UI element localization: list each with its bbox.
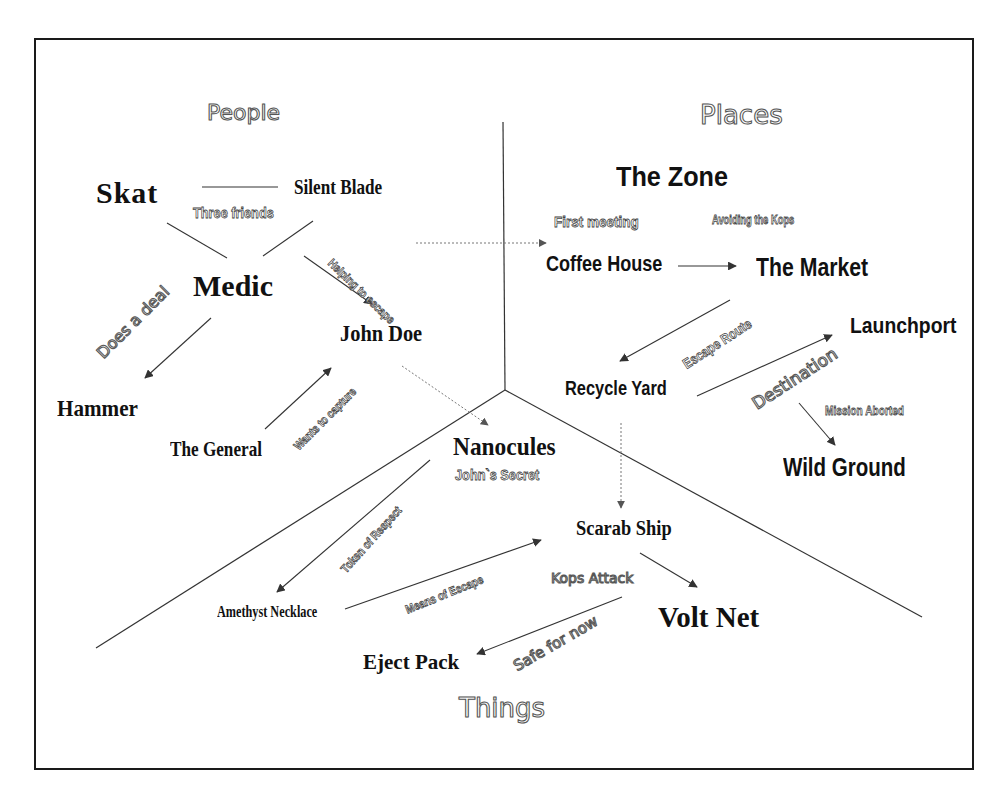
node-the-general: The General (170, 438, 262, 460)
node-scarab-ship: Scarab Ship (576, 518, 672, 538)
edge-label-mission-aborted: Mission Aborted (825, 404, 904, 417)
node-coffee-house: Coffee House (546, 253, 662, 275)
node-volt-net: Volt Net (658, 603, 759, 632)
node-wild-ground: Wild Ground (783, 455, 906, 480)
section-heading-places: Places (700, 102, 783, 128)
edge-label-avoiding-the-kops: Avoiding the Kops (712, 214, 794, 226)
node-amethyst-necklace: Amethyst Necklace (217, 603, 317, 620)
edge-label-three-friends: Three friends (193, 205, 274, 220)
node-medic: Medic (193, 271, 273, 301)
connector-lines (0, 0, 1005, 790)
section-heading-things: Things (459, 695, 545, 721)
node-the-market: The Market (756, 255, 868, 280)
edge-label-johns-secret: John`s Secret (455, 467, 539, 482)
node-eject-pack: Eject Pack (363, 652, 459, 673)
node-silent-blade: Silent Blade (294, 176, 382, 198)
node-the-zone: The Zone (616, 163, 728, 191)
node-hammer: Hammer (57, 396, 138, 420)
story-map-diagram: People Places Things Skat Silent Blade M… (0, 0, 1005, 790)
edge-label-first-meeting: First meeting (554, 214, 639, 229)
node-launchport: Launchport (850, 315, 956, 337)
section-heading-people: People (207, 102, 280, 124)
node-john-doe: John Doe (340, 321, 422, 345)
node-nanocules: Nanocules (453, 434, 556, 460)
node-skat: Skat (96, 178, 158, 208)
edge-label-kops-attack: Kops Attack (551, 571, 633, 585)
node-recycle-yard: Recycle Yard (565, 378, 667, 398)
